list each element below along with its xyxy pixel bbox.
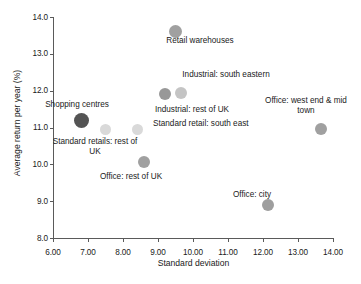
y-tick-label-text: 14.0 <box>22 13 48 22</box>
data-point-marker[interactable] <box>315 123 327 135</box>
data-point-marker[interactable] <box>132 124 143 135</box>
y-tick-label: 9.0 <box>20 197 48 206</box>
y-tick-mark <box>50 54 53 55</box>
x-tick-label: 11.00 <box>208 241 248 259</box>
data-point-marker[interactable] <box>262 199 274 211</box>
x-tick-label-text: 8.00 <box>115 248 131 257</box>
x-tick-label-text: 7.00 <box>80 248 96 257</box>
x-tick-label: 9.00 <box>138 241 178 259</box>
data-point-marker[interactable] <box>74 113 89 128</box>
data-point-label: Industrial: rest of UK <box>142 105 242 115</box>
data-point-marker[interactable] <box>138 156 150 168</box>
y-tick-label: 12.0 <box>20 86 48 95</box>
y-tick-mark <box>50 164 53 165</box>
y-axis-line <box>53 17 54 239</box>
x-tick-label: 14.00 <box>313 241 353 259</box>
data-point-label: Office: city <box>216 190 288 200</box>
x-tick-label: 6.00 <box>33 241 73 259</box>
data-point-label: Office: west end & mid town <box>254 96 358 116</box>
data-point-label: Shopping centres <box>34 100 120 110</box>
y-tick-label: 14.0 <box>20 13 48 22</box>
x-tick-label: 10.00 <box>173 241 213 259</box>
x-tick-label-text: 10.00 <box>183 248 203 257</box>
x-tick-label-text: 11.00 <box>218 248 237 257</box>
y-tick-mark <box>50 91 53 92</box>
data-point-label: Office: rest of UK <box>85 172 177 182</box>
y-tick-mark <box>50 201 53 202</box>
x-tick-label-text: 14.00 <box>323 248 343 257</box>
x-tick-label-text: 13.00 <box>288 248 308 257</box>
x-tick-label: 12.00 <box>243 241 283 259</box>
y-tick-label: 10.0 <box>20 160 48 169</box>
x-tick-label: 7.00 <box>68 241 108 259</box>
data-point-marker[interactable] <box>159 88 171 100</box>
y-tick-label-text: 12.0 <box>22 86 48 95</box>
y-tick-label: 11.0 <box>20 123 48 132</box>
x-tick-label: 8.00 <box>103 241 143 259</box>
x-tick-label-text: 6.00 <box>45 248 61 257</box>
data-point-label: Standard retail: south east <box>153 119 277 129</box>
x-tick-label-text: 12.00 <box>253 248 273 257</box>
x-axis-title: Standard deviation <box>53 258 334 268</box>
y-axis-title: Average return per year (%) <box>12 58 22 188</box>
y-tick-label-text: 11.0 <box>22 123 48 132</box>
scatter-chart: 8.09.010.011.012.013.014.0 6.007.008.009… <box>0 0 361 284</box>
y-tick-label-text: 9.0 <box>22 197 48 206</box>
y-tick-mark <box>50 128 53 129</box>
y-tick-label: 13.0 <box>20 49 48 58</box>
data-point-label: Standard retails: rest of UK <box>48 137 142 157</box>
data-point-label: Industrial: south eastern <box>168 70 284 80</box>
data-point-marker[interactable] <box>175 87 187 99</box>
x-tick-label-text: 9.00 <box>150 248 166 257</box>
y-tick-label-text: 10.0 <box>22 160 48 169</box>
y-tick-label-text: 13.0 <box>22 49 48 58</box>
data-point-marker[interactable] <box>100 124 111 135</box>
data-point-label: Retail warehouses <box>150 36 250 46</box>
y-tick-mark <box>50 17 53 18</box>
x-tick-label: 13.00 <box>278 241 318 259</box>
